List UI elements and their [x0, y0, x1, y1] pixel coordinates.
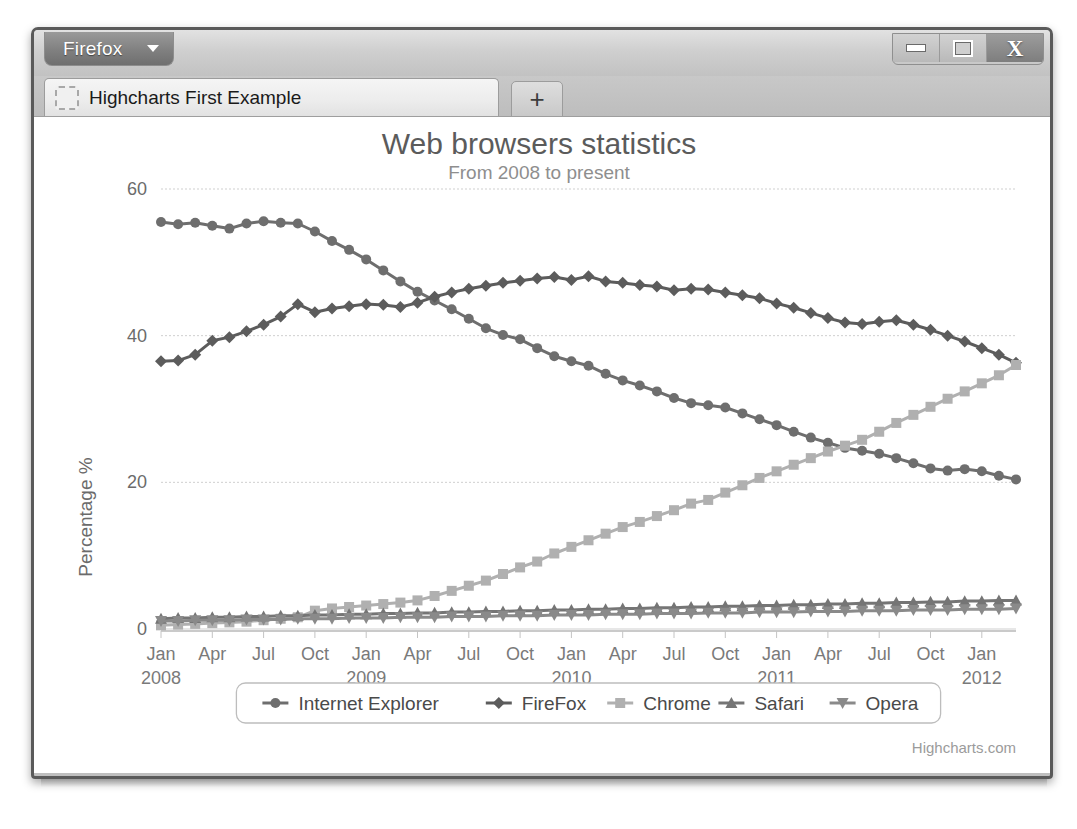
y-axis-title: Percentage % [75, 457, 96, 576]
restore-icon [953, 40, 973, 57]
firefox-menu-button[interactable]: Firefox [44, 32, 174, 66]
x-tick-month: Oct [506, 644, 534, 664]
chart-title: Web browsers statistics [382, 127, 697, 160]
x-tick-year: 2008 [141, 668, 181, 688]
page-root: Firefox X Highcharts First Example [0, 0, 1077, 829]
new-tab-button[interactable]: + [511, 81, 563, 117]
tab-title: Highcharts First Example [89, 87, 301, 109]
maximize-button[interactable] [940, 34, 987, 62]
minimize-icon [906, 44, 926, 52]
y-tick-label: 0 [137, 619, 147, 639]
x-tick-month: Jul [662, 644, 685, 664]
y-tick-label: 40 [127, 326, 147, 346]
y-tick-label: 20 [127, 472, 147, 492]
x-tick-year: 2012 [962, 668, 1002, 688]
title-bar: Firefox X [34, 30, 1050, 76]
x-tick-month: Oct [301, 644, 329, 664]
y-axis-tick-labels: 0204060 [127, 179, 147, 639]
plus-icon: + [529, 86, 544, 112]
minimize-button[interactable] [893, 34, 940, 62]
x-tick-month: Jan [762, 644, 791, 664]
x-tick-month: Oct [916, 644, 944, 664]
firefox-menu-label: Firefox [63, 38, 122, 59]
browser-window: Firefox X Highcharts First Example [31, 27, 1053, 779]
close-button[interactable]: X [987, 34, 1043, 62]
page-favicon-icon [55, 86, 79, 110]
chart-svg: Web browsers statistics From 2008 to pre… [34, 117, 1044, 773]
tab-strip: Highcharts First Example + [34, 76, 1050, 116]
chart-legend[interactable]: Internet ExplorerFireFoxChromeSafariOper… [236, 683, 940, 723]
x-tick-month: Apr [814, 644, 842, 664]
x-axis-tick-labels: Jan2008AprJulOctJan2009AprJulOctJan2010A… [141, 631, 1002, 688]
grid-lines [161, 189, 1016, 629]
legend-label: Safari [754, 693, 804, 714]
series-layer [155, 216, 1022, 630]
window-controls: X [892, 33, 1044, 65]
x-tick-month: Jan [967, 644, 996, 664]
x-tick-month: Oct [711, 644, 739, 664]
series-chrome [156, 360, 1021, 630]
legend-label: Chrome [643, 693, 711, 714]
x-tick-month: Apr [198, 644, 226, 664]
x-tick-month: Apr [403, 644, 431, 664]
x-tick-month: Jan [352, 644, 381, 664]
page-content: Web browsers statistics From 2008 to pre… [34, 116, 1050, 773]
highcharts-chart: Web browsers statistics From 2008 to pre… [34, 117, 1044, 773]
legend-label: Internet Explorer [298, 693, 439, 714]
close-icon: X [1007, 37, 1024, 60]
x-tick-month: Jul [868, 644, 891, 664]
highcharts-credit: Highcharts.com [912, 739, 1016, 756]
x-tick-month: Jul [457, 644, 480, 664]
chevron-down-icon [147, 45, 159, 52]
series-internet-explorer [156, 216, 1021, 484]
tab-highcharts-first-example[interactable]: Highcharts First Example [44, 78, 499, 116]
chart-subtitle: From 2008 to present [448, 162, 630, 183]
x-tick-month: Apr [609, 644, 637, 664]
y-tick-label: 60 [127, 179, 147, 199]
series-firefox [155, 270, 1022, 369]
legend-label: FireFox [522, 693, 587, 714]
legend-label: Opera [866, 693, 919, 714]
x-tick-month: Jan [557, 644, 586, 664]
x-tick-month: Jul [252, 644, 275, 664]
x-tick-month: Jan [146, 644, 175, 664]
